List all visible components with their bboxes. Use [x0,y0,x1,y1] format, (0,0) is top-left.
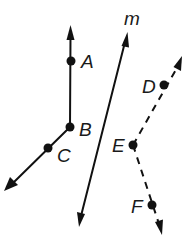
ray-ba [67,25,75,127]
label-a: A [80,51,94,72]
point-e [129,141,138,150]
ray-ef [133,145,163,235]
geometry-diagram: A B C m D E F [0,0,196,242]
arrowhead-up-icon [122,32,130,48]
point-f [148,201,157,210]
label-b: B [79,119,92,140]
label-d: D [142,76,156,97]
arrowhead-down-icon [155,220,163,236]
point-c [44,144,53,153]
arrowhead-up-icon [67,25,75,40]
label-e: E [112,135,125,156]
point-d [160,81,169,90]
point-a [67,57,76,66]
label-c: C [57,145,71,166]
arrowhead-down-icon [77,212,85,227]
point-b [66,123,75,132]
arrowhead-up-right-icon [174,56,183,71]
label-f: F [131,196,144,217]
label-m: m [124,8,140,29]
ray-ed [133,56,182,145]
